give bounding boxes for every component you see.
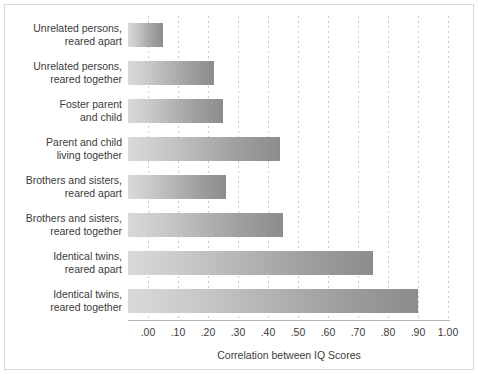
bar <box>128 23 163 47</box>
tick-label: .80 <box>381 325 396 339</box>
tick-label: .20 <box>201 325 216 339</box>
tick-label: .00 <box>141 325 156 339</box>
bar <box>128 213 283 237</box>
bar-row <box>128 61 448 85</box>
tick-label: .70 <box>351 325 366 339</box>
category-label: Unrelated persons, reared apart <box>0 22 122 47</box>
category-label: Foster parent and child <box>0 98 122 123</box>
bar <box>128 175 226 199</box>
category-label: Unrelated persons, reared together <box>0 60 122 85</box>
bar-row <box>128 213 448 237</box>
gridline <box>448 16 449 320</box>
tick-label: 1.00 <box>438 325 458 339</box>
category-label: Identical twins, reared together <box>0 288 122 313</box>
category-axis-labels: Unrelated persons, reared apartUnrelated… <box>0 16 122 320</box>
tick-label: .60 <box>321 325 336 339</box>
bar-row <box>128 175 448 199</box>
bar <box>128 251 373 275</box>
plot-area <box>128 16 448 320</box>
bar-row <box>128 99 448 123</box>
tick-label: .10 <box>171 325 186 339</box>
bar-row <box>128 137 448 161</box>
x-axis-tick-labels: .00.10.20.30.40.50.60.70.80.901.00 <box>0 325 478 341</box>
tick-label: .40 <box>261 325 276 339</box>
bar <box>128 137 280 161</box>
bar-row <box>128 251 448 275</box>
x-axis-title: Correlation between IQ Scores <box>128 349 450 361</box>
bar <box>128 61 214 85</box>
tick-label: .90 <box>411 325 426 339</box>
category-label: Identical twins, reared apart <box>0 250 122 275</box>
chart-figure: Unrelated persons, reared apartUnrelated… <box>0 0 478 374</box>
bar-row <box>128 23 448 47</box>
x-axis-line <box>128 320 450 321</box>
category-label: Parent and child living together <box>0 136 122 161</box>
bar <box>128 99 223 123</box>
bar-row <box>128 289 448 313</box>
tick-label: .30 <box>231 325 246 339</box>
bar <box>128 289 418 313</box>
category-label: Brothers and sisters, reared together <box>0 212 122 237</box>
category-label: Brothers and sisters, reared apart <box>0 174 122 199</box>
tick-label: .50 <box>291 325 306 339</box>
